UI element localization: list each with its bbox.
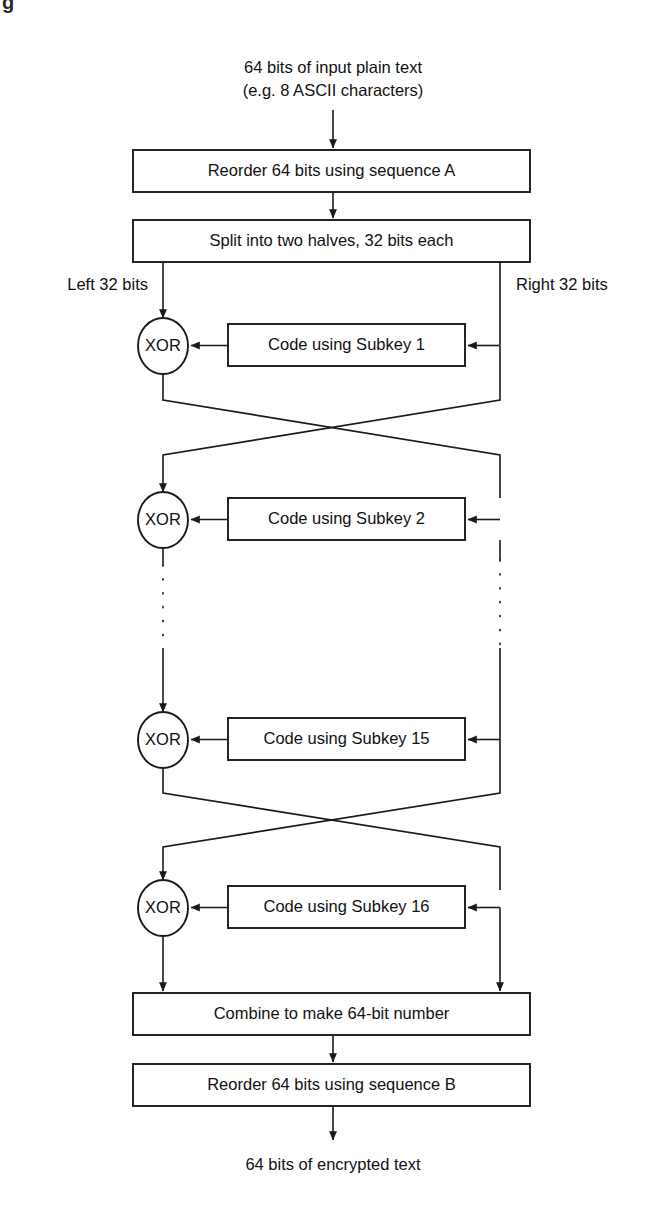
label-left-32-bits: Left 32 bits [67, 275, 148, 293]
flowchart-canvas: 64 bits of input plain text (e.g. 8 ASCI… [0, 0, 667, 1211]
xor-gate-round-15-label: XOR [145, 730, 181, 748]
label-right-32-bits: Right 32 bits [516, 275, 608, 293]
des-encryption-flow-diagram: g 64 bits of input plain text (e.g. 8 AS… [0, 0, 667, 1211]
box-code-subkey-15-label: Code using Subkey 15 [263, 729, 429, 747]
box-reorder-sequence-a-label: Reorder 64 bits using sequence A [208, 161, 456, 179]
box-reorder-sequence-b-label: Reorder 64 bits using sequence B [207, 1075, 456, 1093]
box-code-subkey-2-label: Code using Subkey 2 [268, 509, 425, 527]
input-plain-text-line1: 64 bits of input plain text [244, 58, 422, 76]
box-code-subkey-16-label: Code using Subkey 16 [263, 897, 429, 915]
output-encrypted-text: 64 bits of encrypted text [245, 1155, 421, 1173]
box-split-halves-label: Split into two halves, 32 bits each [210, 231, 454, 249]
crossover-1-left-to-right [163, 374, 500, 498]
xor-gate-round-16-label: XOR [145, 898, 181, 916]
crossover-2-left-to-right [163, 768, 500, 890]
xor-gate-round-2-label: XOR [145, 510, 181, 528]
box-code-subkey-1-label: Code using Subkey 1 [268, 335, 425, 353]
crossover-1-right-to-left [163, 346, 500, 493]
input-plain-text-line2: (e.g. 8 ASCII characters) [243, 81, 424, 99]
xor-gate-round-1-label: XOR [145, 336, 181, 354]
box-combine-64bit-label: Combine to make 64-bit number [214, 1004, 450, 1022]
